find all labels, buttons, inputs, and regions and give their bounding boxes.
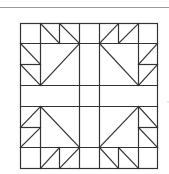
pattern-line <box>41 148 60 169</box>
pattern-line <box>119 148 139 169</box>
pattern-line <box>139 128 158 148</box>
pattern-line <box>41 107 80 148</box>
quilt-block-diagram <box>0 0 169 174</box>
pattern-line <box>139 44 158 65</box>
artifact-dot <box>167 101 169 103</box>
pattern-line <box>21 107 41 128</box>
pattern-line <box>41 24 60 44</box>
pattern-line <box>100 44 139 86</box>
pattern-line <box>139 107 158 128</box>
pattern-line <box>100 107 139 148</box>
pattern-line <box>139 65 158 86</box>
pattern-line <box>21 44 41 65</box>
pattern-line <box>21 65 41 86</box>
pattern-line <box>41 44 80 86</box>
pattern-line <box>60 148 80 169</box>
pattern-line <box>21 128 41 148</box>
pattern-line <box>100 24 119 44</box>
pattern-line <box>100 148 119 169</box>
pattern-line <box>60 24 80 44</box>
block-pattern-lines <box>21 24 158 169</box>
pattern-line <box>119 24 139 44</box>
